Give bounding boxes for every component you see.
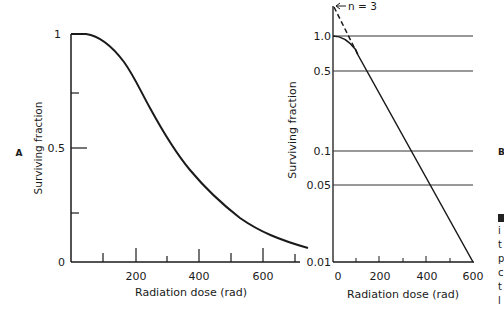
caption-char: c — [498, 266, 504, 280]
y-tick-0-5: 0.5 — [314, 65, 332, 78]
y-tick-1-0: 1.0 — [314, 30, 332, 43]
survival-curve-a — [71, 34, 308, 248]
panel-label-a: A — [16, 148, 23, 158]
caption-char: t — [498, 280, 504, 294]
side-caption: i t p c t l — [498, 224, 504, 308]
y-tick-0: 0 — [58, 256, 65, 269]
y-tick-05: 0.5 — [48, 142, 66, 155]
x-axis-label-b: Radiation dose (rad) — [347, 288, 459, 301]
x-tick-400: 400 — [417, 270, 438, 283]
caption-char: p — [498, 252, 504, 266]
survival-curve-b — [333, 36, 473, 262]
caption-char: l — [498, 294, 504, 308]
caption-bold-mark — [498, 214, 504, 222]
n-annotation: n = 3 — [348, 0, 377, 12]
caption-char: t — [498, 238, 504, 252]
y-axis-label-a: Surviving fraction — [32, 102, 44, 195]
y-tick-0-1: 0.1 — [314, 145, 332, 158]
arrow-icon — [336, 3, 346, 9]
x-tick-0: 0 — [335, 270, 342, 283]
x-tick-200: 200 — [126, 270, 147, 283]
panel-label-b: B — [498, 147, 504, 157]
x-tick-600: 600 — [463, 270, 484, 283]
x-tick-200: 200 — [370, 270, 391, 283]
figure: 1 0.5 0 200 400 600 Radiation dose (rad)… — [0, 0, 504, 312]
y-tick-1: 1 — [54, 28, 61, 41]
y-tick-0-05: 0.05 — [307, 179, 332, 192]
x-axis-label-a: Radiation dose (rad) — [135, 286, 247, 299]
y-tick-0-01: 0.01 — [307, 256, 332, 269]
caption-char: i — [498, 224, 504, 238]
panel-a: 1 0.5 0 200 400 600 Radiation dose (rad)… — [16, 28, 308, 299]
x-tick-400: 400 — [189, 270, 210, 283]
y-axis-label-b: Surviving fraction — [286, 81, 299, 178]
x-tick-600: 600 — [253, 270, 274, 283]
panel-b: n = 3 1.0 0.5 0.1 0.05 0.01 0 200 400 60… — [286, 0, 504, 301]
